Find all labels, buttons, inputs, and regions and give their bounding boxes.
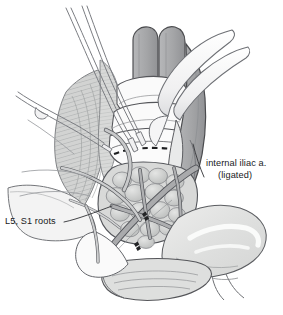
label-l5-s1-roots: L5, S1 roots (5, 216, 56, 228)
label-internal-iliac-artery: internal iliac a. (ligated) (206, 158, 266, 181)
label-internal-iliac-line1: internal iliac a. (206, 158, 266, 168)
surgical-illustration-figure: internal iliac a. (ligated) L5, S1 roots (0, 0, 283, 315)
label-internal-iliac-line2: (ligated) (206, 170, 266, 182)
